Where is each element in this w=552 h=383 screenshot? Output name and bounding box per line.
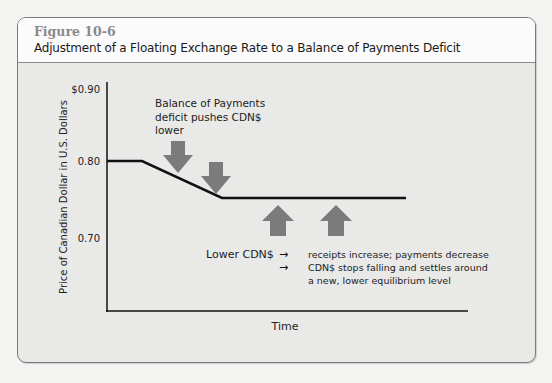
svg-text:Balance of Payments: Balance of Payments bbox=[155, 97, 265, 109]
down-arrow-icon bbox=[163, 141, 193, 173]
svg-text:receipts increase; payments de: receipts increase; payments decrease bbox=[308, 249, 489, 260]
y-tick-080: 0.80 bbox=[78, 156, 100, 167]
x-axis-label: Time bbox=[271, 320, 299, 333]
deficit-annotation: Balance of Payments deficit pushes CDN$ … bbox=[155, 97, 265, 136]
exchange-rate-line bbox=[107, 161, 406, 198]
y-tick-090: $0.90 bbox=[71, 84, 100, 95]
y-tick-070: 0.70 bbox=[78, 233, 100, 244]
lower-cdn-label: Lower CDN$ bbox=[206, 248, 274, 261]
arrow-right-icon: → bbox=[279, 248, 288, 261]
svg-text:CDN$ stops falling and settles: CDN$ stops falling and settles around bbox=[308, 262, 488, 273]
up-arrow-icon bbox=[262, 205, 294, 236]
arrow-right-icon: → bbox=[279, 261, 288, 274]
svg-text:a new, lower equilibrium level: a new, lower equilibrium level bbox=[308, 275, 451, 286]
up-arrow-icon bbox=[320, 205, 352, 236]
svg-text:deficit pushes CDN$: deficit pushes CDN$ bbox=[155, 111, 262, 123]
y-axis-label: Price of Canadian Dollar in U.S. Dollars bbox=[58, 100, 69, 294]
svg-text:lower: lower bbox=[155, 124, 184, 136]
chart: Price of Canadian Dollar in U.S. Dollars… bbox=[0, 0, 552, 383]
effects-annotation: receipts increase; payments decrease CDN… bbox=[308, 249, 489, 286]
